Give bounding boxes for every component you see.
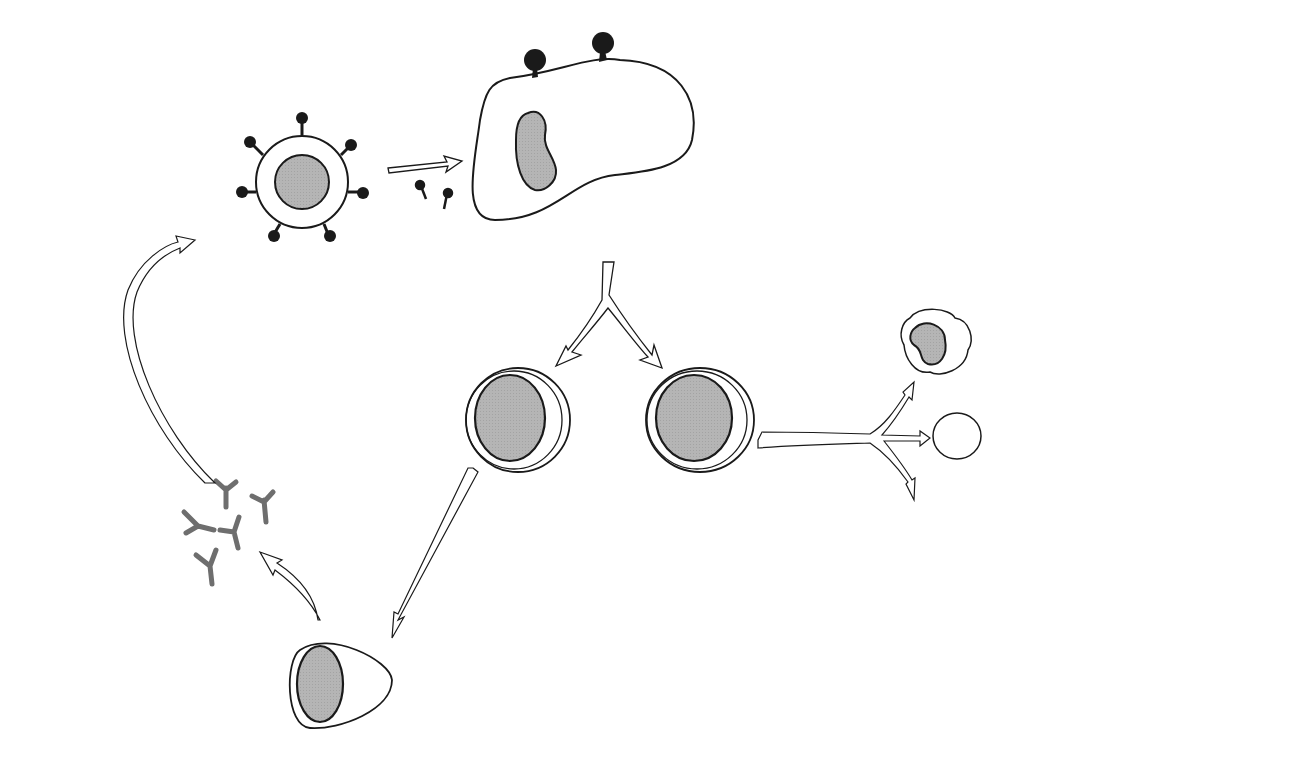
arrow-adcc bbox=[124, 236, 215, 483]
t-cell-icon bbox=[646, 368, 754, 472]
diagram-canvas bbox=[0, 0, 1305, 775]
arrow-tumor-to-apc bbox=[388, 156, 462, 173]
antibody-icon bbox=[184, 481, 273, 584]
tumor-cell-icon bbox=[236, 112, 369, 242]
arrow-bcell-to-plasma bbox=[392, 468, 478, 638]
nk-cell-icon bbox=[933, 413, 981, 459]
diagram-graphics bbox=[0, 0, 1305, 775]
b-cell-icon bbox=[466, 368, 570, 472]
apc-cell-icon bbox=[473, 32, 694, 220]
macrophage-icon bbox=[901, 309, 971, 374]
arrow-bt-stimulation bbox=[556, 262, 662, 368]
plasma-cell-icon bbox=[290, 643, 392, 728]
arrow-plasma-to-antibody bbox=[260, 552, 320, 620]
shed-antigen-icon bbox=[416, 181, 452, 209]
arrow-lymphokine bbox=[758, 382, 930, 500]
